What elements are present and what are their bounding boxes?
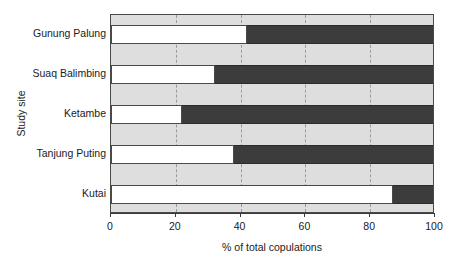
bar-segment-light — [111, 105, 182, 124]
plot-area — [110, 14, 434, 213]
x-tick-mark — [110, 213, 111, 217]
x-tick-mark — [240, 213, 241, 217]
bar-row — [111, 145, 433, 164]
bar-segment-light — [111, 65, 215, 84]
x-axis-title: % of total copulations — [110, 241, 434, 254]
x-tick-label-100: 100 — [425, 220, 443, 232]
x-tick-label-40: 40 — [234, 220, 246, 232]
x-tick-mark — [304, 213, 305, 217]
x-tick-mark — [175, 213, 176, 217]
x-tick-label-20: 20 — [169, 220, 181, 232]
x-axis-line — [110, 213, 434, 214]
bar-row — [111, 25, 433, 44]
x-tick-label-60: 60 — [299, 220, 311, 232]
y-tick-label-gunung-palung: Gunung Palung — [20, 27, 106, 40]
bar-segment-dark — [215, 65, 434, 84]
y-tick-label-tanjung-puting: Tanjung Puting — [20, 147, 106, 160]
x-tick-label-0: 0 — [107, 220, 113, 232]
bar-segment-dark — [393, 185, 434, 204]
bar-segment-light — [111, 185, 393, 204]
bar-segment-light — [111, 25, 247, 44]
y-tick-label-ketambe: Ketambe — [20, 107, 106, 120]
bar-segment-dark — [247, 25, 434, 44]
x-tick-label-80: 80 — [363, 220, 375, 232]
x-tick-mark — [434, 213, 435, 217]
bar-chart-figure: Study site Gunung PalungSuaq BalimbingKe… — [0, 0, 459, 271]
y-tick-label-suaq-balimbing: Suaq Balimbing — [20, 67, 106, 80]
bar-row — [111, 65, 433, 84]
x-tick-mark — [369, 213, 370, 217]
bar-row — [111, 105, 433, 124]
y-tick-label-kutai: Kutai — [20, 187, 106, 200]
bar-segment-dark — [182, 105, 434, 124]
bar-segment-light — [111, 145, 234, 164]
bar-segment-dark — [234, 145, 434, 164]
y-axis-tick-labels: Gunung PalungSuaq BalimbingKetambeTanjun… — [20, 14, 106, 213]
bar-row — [111, 185, 433, 204]
